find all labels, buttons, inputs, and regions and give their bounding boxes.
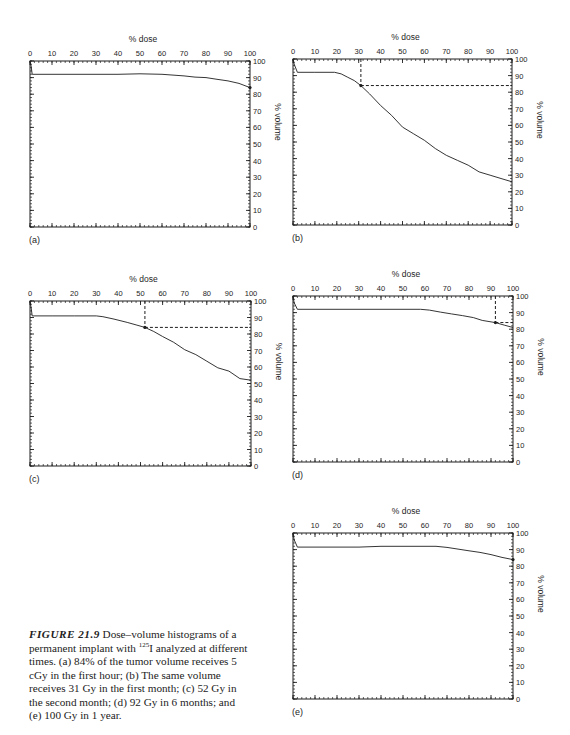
x-tick-label: 20 [70, 49, 78, 58]
x-tick-label: 90 [486, 47, 494, 56]
y-axis-title: % volume [535, 101, 545, 139]
y-axis-title: % volume [536, 338, 546, 376]
x-tick-label: 70 [181, 289, 189, 298]
x-axis-title: % dose [129, 274, 158, 284]
x-tick-label: 30 [92, 49, 100, 58]
y-tick-label: 90 [516, 546, 524, 555]
y-tick-label: 20 [254, 429, 262, 438]
figure-caption: FIGURE 21.9 Dose–volume histograms of a … [29, 628, 249, 723]
x-tick-label: 50 [398, 47, 406, 56]
y-tick-label: 50 [516, 375, 524, 384]
x-tick-label: 60 [421, 521, 429, 530]
x-tick-label: 80 [464, 47, 472, 56]
x-tick-label: 70 [443, 521, 451, 530]
x-tick-label: 20 [333, 284, 341, 293]
dvh-panel-e: 0102030405060708090100010203040506070809… [291, 506, 546, 717]
y-tick-label: 50 [253, 140, 261, 149]
y-tick-label: 20 [253, 190, 261, 199]
y-tick-label: 50 [254, 380, 262, 389]
x-tick-label: 10 [311, 47, 319, 56]
y-tick-label: 80 [515, 88, 523, 97]
x-tick-label: 30 [355, 521, 363, 530]
dvh-panel-c: 0102030405060708090100010203040506070809… [28, 274, 284, 484]
y-tick-label: 30 [516, 645, 524, 654]
x-tick-label: 20 [333, 47, 341, 56]
dvh-panel-d: 0102030405060708090100010203040506070809… [291, 269, 546, 480]
y-tick-label: 80 [516, 325, 524, 334]
x-minor-ticks [293, 59, 512, 225]
y-tick-label: 90 [515, 72, 523, 81]
y-minor-ticks [293, 59, 512, 225]
x-tick-label: 80 [202, 49, 210, 58]
y-tick-label: 0 [254, 462, 258, 471]
panel-label: (e) [292, 707, 303, 717]
y-tick-label: 40 [516, 629, 524, 638]
y-tick-label: 100 [516, 529, 529, 538]
plot-frame [293, 59, 512, 225]
dvh-panel-b: 0102030405060708090100010203040506070809… [291, 32, 545, 243]
y-tick-label: 30 [516, 408, 524, 417]
x-tick-label: 40 [377, 521, 385, 530]
panel-label: (a) [29, 235, 40, 245]
y-tick-label: 10 [516, 441, 524, 450]
y-tick-label: 80 [253, 90, 261, 99]
x-tick-label: 10 [311, 521, 319, 530]
x-tick-label: 20 [70, 289, 78, 298]
x-axis-title: % dose [392, 269, 421, 279]
x-tick-label: 70 [180, 49, 188, 58]
x-minor-ticks [293, 296, 513, 462]
dvh-curve [30, 301, 251, 380]
x-tick-label: 40 [376, 47, 384, 56]
dvh-marker-point [359, 84, 362, 87]
x-tick-label: 40 [114, 49, 122, 58]
y-tick-label: 100 [515, 55, 528, 64]
y-tick-label: 70 [516, 342, 524, 351]
y-tick-label: 30 [253, 173, 261, 182]
x-tick-label: 50 [399, 521, 407, 530]
y-tick-label: 10 [515, 204, 523, 213]
y-tick-label: 60 [515, 121, 523, 130]
x-tick-label: 80 [465, 284, 473, 293]
y-tick-label: 60 [253, 123, 261, 132]
x-minor-ticks [30, 61, 250, 227]
y-tick-label: 70 [253, 107, 261, 116]
x-tick-label: 0 [28, 289, 32, 298]
y-tick-label: 40 [253, 157, 261, 166]
x-axis-title: % dose [391, 32, 420, 42]
y-tick-label: 10 [253, 206, 261, 215]
y-axis-title: % volume [536, 575, 546, 613]
dvh-marker-point [143, 326, 146, 329]
figure-21-9: 0102030405060708090100010203040506070809… [0, 0, 570, 735]
dvh-panel-a: 0102030405060708090100010203040506070809… [28, 34, 283, 245]
y-tick-label: 0 [516, 458, 520, 467]
x-tick-label: 40 [377, 284, 385, 293]
x-tick-label: 50 [399, 284, 407, 293]
y-minor-ticks [293, 533, 513, 699]
x-tick-label: 90 [225, 289, 233, 298]
y-tick-label: 90 [253, 74, 261, 83]
y-tick-label: 50 [516, 612, 524, 621]
x-tick-label: 30 [355, 47, 363, 56]
x-tick-label: 80 [203, 289, 211, 298]
x-axis-title: % dose [129, 34, 158, 44]
x-tick-label: 10 [48, 49, 56, 58]
y-tick-label: 20 [516, 662, 524, 671]
x-tick-label: 0 [28, 49, 32, 58]
y-tick-label: 0 [253, 223, 257, 232]
dvh-marker-point [248, 86, 251, 89]
plot-frame [293, 533, 513, 699]
x-tick-label: 60 [158, 49, 166, 58]
y-tick-label: 60 [254, 363, 262, 372]
y-tick-label: 10 [516, 678, 524, 687]
x-tick-label: 0 [291, 284, 295, 293]
y-tick-label: 10 [254, 446, 262, 455]
x-tick-label: 80 [465, 521, 473, 530]
x-axis-title: % dose [392, 506, 421, 516]
y-tick-label: 30 [254, 413, 262, 422]
y-tick-label: 80 [254, 330, 262, 339]
x-tick-label: 10 [311, 284, 319, 293]
y-tick-label: 90 [254, 314, 262, 323]
y-tick-label: 100 [516, 292, 529, 301]
x-tick-label: 50 [136, 49, 144, 58]
y-axis-title: % volume [273, 103, 283, 141]
